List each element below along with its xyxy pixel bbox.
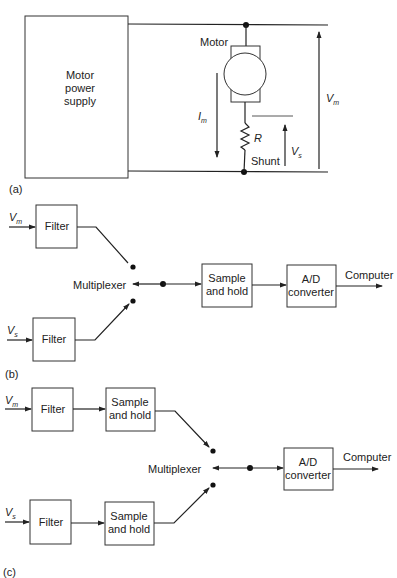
panel-c: Vm Filter Sample and hold Vs Filter Samp… — [3, 388, 392, 578]
current-label: Im — [198, 110, 207, 124]
vm-input-label: Vm — [9, 211, 22, 225]
top-rail — [128, 24, 328, 25]
vs-label: Vs — [291, 145, 302, 159]
svg-text:Sample: Sample — [111, 396, 148, 408]
svg-text:Filter: Filter — [42, 333, 67, 345]
svg-text:Sample: Sample — [110, 510, 147, 522]
mux-input-top — [77, 227, 128, 263]
svg-text:and hold: and hold — [109, 409, 151, 421]
svg-text:and hold: and hold — [108, 523, 150, 535]
resistor-icon — [241, 123, 249, 150]
vs-input-label: Vs — [5, 506, 16, 520]
mux-input-bottom — [154, 488, 209, 523]
computer-label: Computer — [345, 269, 394, 281]
multiplexer-label: Multiplexer — [73, 279, 127, 291]
svg-text:power: power — [65, 82, 95, 94]
panel-a: Motor power supply Motor R Shunt Im Vs V… — [9, 16, 339, 195]
vm-input-label: Vm — [5, 394, 18, 408]
computer-label: Computer — [343, 451, 392, 463]
svg-text:Filter: Filter — [45, 220, 70, 232]
svg-text:Filter: Filter — [41, 403, 66, 415]
mux-input-top — [155, 411, 209, 447]
vm-label: Vm — [326, 92, 339, 106]
svg-text:A/D: A/D — [302, 273, 320, 285]
svg-text:supply: supply — [64, 95, 96, 107]
motor-icon — [224, 53, 266, 95]
vs-input-label: Vs — [7, 324, 18, 338]
svg-text:Sample: Sample — [208, 272, 245, 284]
svg-text:converter: converter — [285, 469, 331, 481]
supply-label: Motor — [66, 69, 94, 81]
mux-input-bottom — [75, 304, 129, 340]
multiplexer-label: Multiplexer — [148, 463, 202, 475]
resistor-label: R — [254, 132, 262, 144]
shunt-label: Shunt — [251, 155, 280, 167]
svg-text:converter: converter — [288, 286, 334, 298]
diagram: Motor power supply Motor R Shunt Im Vs V… — [0, 0, 397, 578]
motor-label: Motor — [200, 36, 228, 48]
svg-text:Filter: Filter — [39, 516, 64, 528]
panel-c-tag: (c) — [3, 566, 16, 578]
panel-a-tag: (a) — [9, 183, 22, 195]
panel-b: Vm Filter Vs Filter Multiplexer Sample a… — [5, 205, 394, 380]
panel-b-tag: (b) — [5, 368, 18, 380]
svg-text:and hold: and hold — [206, 285, 248, 297]
bottom-rail — [128, 171, 328, 172]
svg-text:A/D: A/D — [299, 456, 317, 468]
